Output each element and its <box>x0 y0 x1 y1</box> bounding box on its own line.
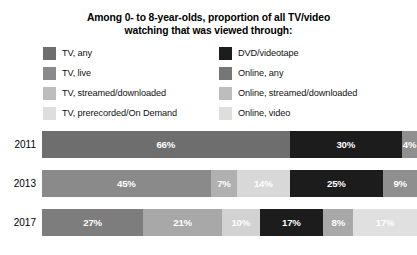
bar-segment[interactable]: 25% <box>290 170 384 197</box>
legend-swatch-tv-live <box>43 67 56 80</box>
legend-item-label: TV, prerecorded/On Demand <box>62 108 177 118</box>
legend-item[interactable]: Online, streamed/downloaded <box>219 83 357 103</box>
legend-item-label: Online, any <box>238 68 283 78</box>
chart-title-line-2: watching that was viewed through: <box>48 24 369 37</box>
legend-item-label: TV, any <box>62 48 92 58</box>
row-year-label: 2017 <box>0 217 42 228</box>
legend-swatch-online-video <box>219 107 232 120</box>
bar-segment[interactable]: 7% <box>211 170 237 197</box>
stacked-bar: 66%30%4% <box>42 131 417 158</box>
legend-item[interactable]: TV, any <box>43 43 177 63</box>
bar-segment[interactable]: 14% <box>237 170 290 197</box>
legend-item-label: TV, live <box>62 68 91 78</box>
stacked-bar: 27%21%10%17%8%17% <box>42 209 417 236</box>
legend-item[interactable]: TV, prerecorded/On Demand <box>43 103 177 123</box>
bar-segment[interactable]: 17% <box>353 209 417 236</box>
legend-item[interactable]: TV, live <box>43 63 177 83</box>
chart-row: 201727%21%10%17%8%17% <box>0 209 417 236</box>
legend-column-left: TV, anyTV, liveTV, streamed/downloadedTV… <box>43 43 177 123</box>
row-year-label: 2013 <box>0 178 42 189</box>
stacked-bar: 45%7%14%25%9% <box>42 170 417 197</box>
legend-swatch-tv-streamed <box>43 87 56 100</box>
legend-swatch-online-any <box>219 67 232 80</box>
bar-segment[interactable]: 8% <box>323 209 353 236</box>
chart-title-line-1: Among 0- to 8-year-olds, proportion of a… <box>48 11 369 24</box>
legend-item-label: Online, streamed/downloaded <box>238 88 357 98</box>
legend-item-label: DVD/videotape <box>238 48 299 58</box>
legend-swatch-online-streamed <box>219 87 232 100</box>
legend-swatch-tv-any <box>43 47 56 60</box>
legend-item[interactable]: Online, any <box>219 63 357 83</box>
bar-segment[interactable]: 21% <box>143 209 222 236</box>
legend-item-label: Online, video <box>238 108 290 118</box>
legend-swatch-dvd <box>219 47 232 60</box>
legend-column-right: DVD/videotapeOnline, anyOnline, streamed… <box>219 43 357 123</box>
row-year-label: 2011 <box>0 139 42 150</box>
bar-segment[interactable]: 30% <box>290 131 403 158</box>
chart-plot-area: 201166%30%4%201345%7%14%25%9%201727%21%1… <box>0 131 417 248</box>
chart-legend: TV, anyTV, liveTV, streamed/downloadedTV… <box>0 43 417 123</box>
bar-segment[interactable]: 10% <box>222 209 260 236</box>
bar-segment[interactable]: 17% <box>260 209 324 236</box>
legend-item[interactable]: Online, video <box>219 103 357 123</box>
bar-segment[interactable]: 66% <box>42 131 290 158</box>
bar-segment[interactable]: 9% <box>383 170 417 197</box>
chart-row: 201345%7%14%25%9% <box>0 170 417 197</box>
legend-item-label: TV, streamed/downloaded <box>62 88 166 98</box>
bar-segment[interactable]: 45% <box>42 170 211 197</box>
bar-segment[interactable]: 27% <box>42 209 143 236</box>
bar-segment[interactable]: 4% <box>402 131 417 158</box>
chart-title: Among 0- to 8-year-olds, proportion of a… <box>0 0 417 37</box>
legend-item[interactable]: DVD/videotape <box>219 43 357 63</box>
legend-swatch-tv-prerecorded <box>43 107 56 120</box>
legend-item[interactable]: TV, streamed/downloaded <box>43 83 177 103</box>
chart-row: 201166%30%4% <box>0 131 417 158</box>
